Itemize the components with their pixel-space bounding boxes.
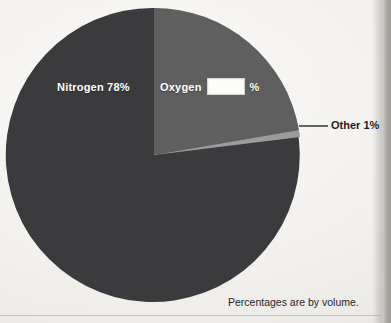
- oxygen-percent-sign: %: [250, 81, 260, 93]
- slice-label-other: Other 1%: [331, 119, 379, 131]
- oxygen-value-blank-box[interactable]: [207, 78, 245, 95]
- pie-chart: Nitrogen 78% Oxygen % Other 1% Percentag…: [0, 0, 391, 323]
- slice-label-oxygen: Oxygen %: [160, 78, 260, 95]
- scanned-page: Nitrogen 78% Oxygen % Other 1% Percentag…: [0, 0, 391, 323]
- chart-footnote: Percentages are by volume.: [228, 296, 359, 308]
- slice-label-oxygen-name: Oxygen: [160, 81, 202, 93]
- slice-label-nitrogen: Nitrogen 78%: [57, 81, 130, 93]
- pie-chart-svg: [0, 0, 391, 323]
